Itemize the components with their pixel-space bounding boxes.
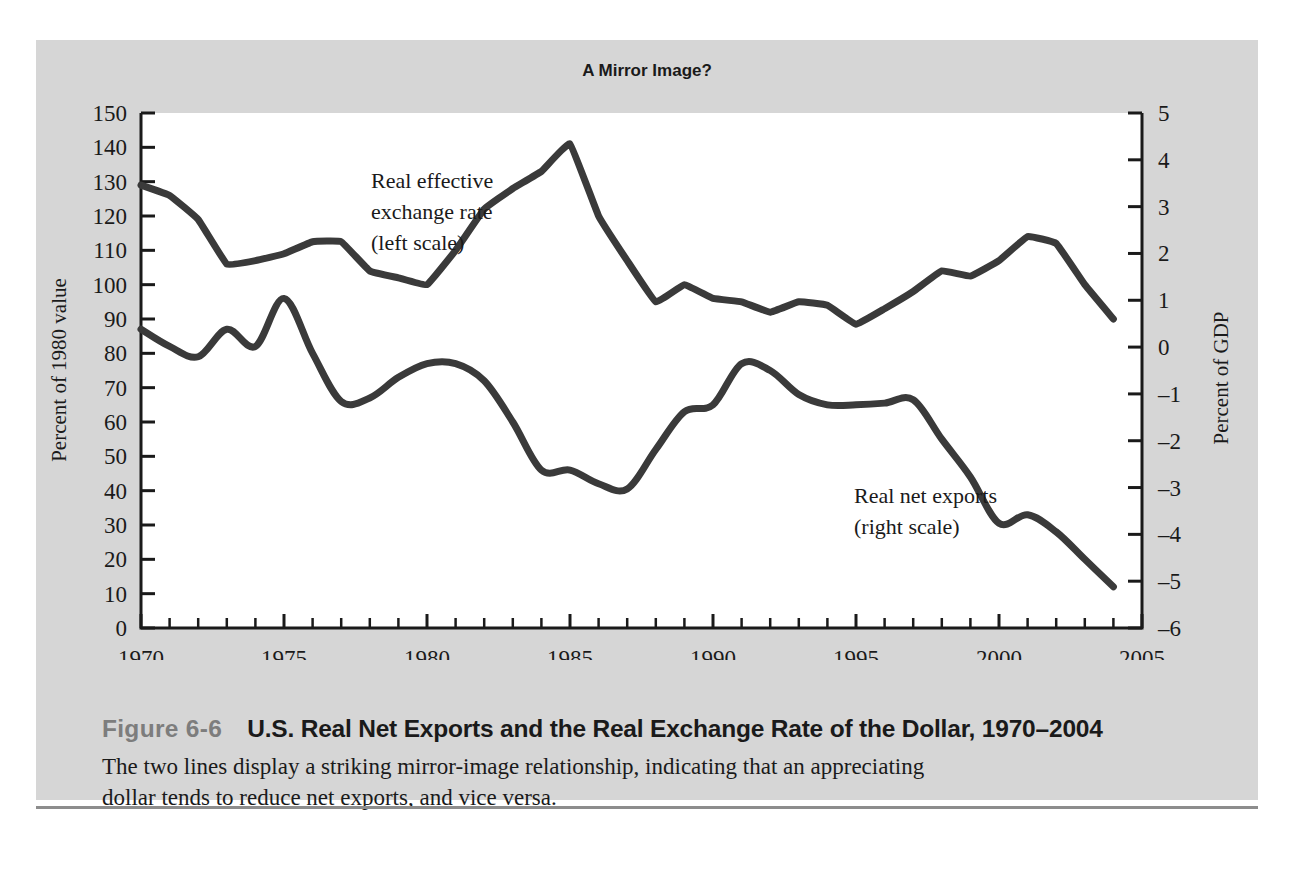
y-axis-right-tick-label: –1 <box>1157 382 1181 407</box>
chart-area: A Mirror Image? 010203040506070809010011… <box>36 40 1258 660</box>
y-axis-right-tick-label: 2 <box>1158 241 1170 266</box>
y-axis-right-tick-label: –5 <box>1157 569 1181 594</box>
caption-heading-text: U.S. Real Net Exports and the Real Excha… <box>247 715 1102 742</box>
x-axis-tick-label: 2000 <box>976 646 1022 660</box>
y-axis-left-tick-label: 30 <box>104 513 127 538</box>
y-axis-left-tick-label: 40 <box>104 479 127 504</box>
plot-background <box>141 113 1142 628</box>
figure-panel: A Mirror Image? 010203040506070809010011… <box>36 40 1258 800</box>
y-axis-right-tick-label: 1 <box>1158 288 1170 313</box>
y-axis-right-tick-label: 5 <box>1158 101 1170 126</box>
x-axis-tick-label: 1985 <box>547 646 593 660</box>
series-annotation-line: (left scale) <box>371 230 464 255</box>
y-axis-right-tick-label: –3 <box>1157 476 1181 501</box>
series-annotation-line: exchange rate <box>371 199 493 224</box>
caption-block: Figure 6-6 U.S. Real Net Exports and the… <box>102 712 1232 813</box>
x-axis-tick-label: 1990 <box>690 646 736 660</box>
y-axis-left-tick-label: 80 <box>104 341 127 366</box>
figure-number: Figure 6-6 <box>102 715 247 742</box>
figure-container: A Mirror Image? 010203040506070809010011… <box>0 0 1292 880</box>
series-annotation-line: (right scale) <box>854 514 960 539</box>
y-axis-left-tick-label: 20 <box>104 547 127 572</box>
series-annotation-line: Real net exports <box>854 483 997 508</box>
series-annotation-line: Real effective <box>371 168 493 193</box>
x-axis-tick-label: 1980 <box>404 646 450 660</box>
y-axis-right-tick-label: 3 <box>1158 195 1170 220</box>
y-axis-left-title: Percent of 1980 value <box>47 278 71 462</box>
y-axis-right-tick-label: –6 <box>1157 616 1181 641</box>
y-axis-right-title: Percent of GDP <box>1209 312 1233 445</box>
y-axis-right-tick-label: –4 <box>1157 522 1182 547</box>
caption-body: The two lines display a striking mirror-… <box>102 751 982 813</box>
y-axis-right-tick-label: 4 <box>1158 148 1170 173</box>
x-axis-tick-label: 2005 <box>1119 646 1165 660</box>
y-axis-left-tick-label: 70 <box>104 376 127 401</box>
y-axis-left-tick-label: 50 <box>104 444 127 469</box>
bottom-rule <box>36 806 1258 809</box>
y-axis-left-tick-label: 110 <box>93 238 127 263</box>
y-axis-left-tick-label: 130 <box>93 170 128 195</box>
y-axis-left-tick-label: 10 <box>104 582 127 607</box>
x-axis-tick-label: 1995 <box>833 646 879 660</box>
y-axis-left-tick-label: 0 <box>116 616 128 641</box>
y-axis-left-tick-label: 60 <box>104 410 127 435</box>
y-axis-left-tick-label: 120 <box>93 204 128 229</box>
y-axis-right-tick-label: 0 <box>1158 335 1170 360</box>
y-axis-right-tick-label: –2 <box>1157 429 1181 454</box>
x-axis-tick-label: 1975 <box>261 646 307 660</box>
line-chart: A Mirror Image? 010203040506070809010011… <box>36 40 1258 660</box>
y-axis-left-tick-label: 150 <box>93 101 128 126</box>
caption-heading: Figure 6-6 U.S. Real Net Exports and the… <box>102 712 1232 745</box>
chart-title: A Mirror Image? <box>582 61 712 80</box>
y-axis-left-tick-label: 140 <box>93 135 128 160</box>
x-axis-tick-label: 1970 <box>118 646 164 660</box>
y-axis-left-tick-label: 100 <box>93 273 128 298</box>
y-axis-left-tick-label: 90 <box>104 307 127 332</box>
